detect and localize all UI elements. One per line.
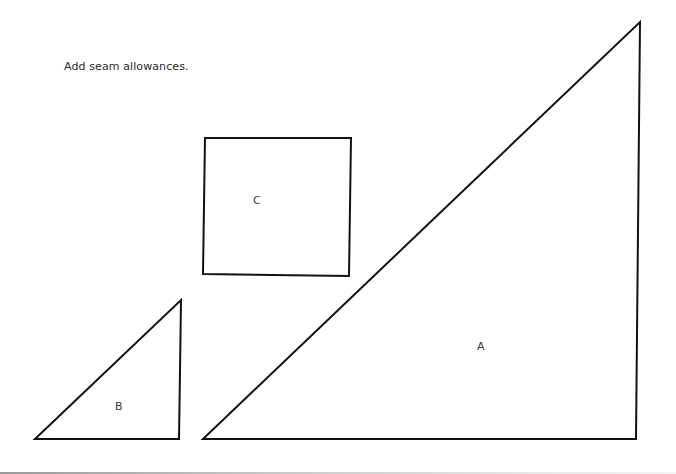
- piece-a-triangle: [203, 22, 640, 439]
- pattern-pieces-canvas: [0, 0, 676, 474]
- piece-c-square: [203, 138, 351, 276]
- piece-a-label: A: [477, 340, 485, 353]
- piece-b-label: B: [115, 400, 123, 413]
- piece-c-label: C: [253, 194, 261, 207]
- piece-b-triangle: [35, 300, 181, 439]
